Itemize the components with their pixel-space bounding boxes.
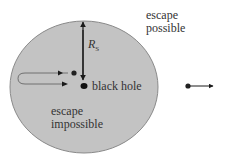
- escape-possible-label: escape possible: [146, 9, 185, 35]
- trapped-particle: [71, 70, 76, 75]
- black-hole-dot: [81, 83, 88, 89]
- radius-label: RS: [88, 38, 99, 56]
- black-hole-label: black hole: [92, 80, 142, 93]
- escape-impossible-label: escape impossible: [51, 105, 103, 131]
